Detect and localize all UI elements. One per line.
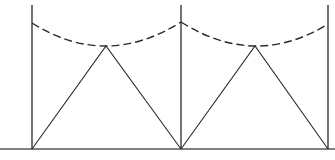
dashed-curves-group	[32, 22, 328, 46]
dashed-curve-left-sag	[32, 22, 181, 46]
triangle-left-span	[32, 46, 181, 149]
diagram-canvas	[0, 0, 335, 160]
truss-diagram	[0, 0, 335, 160]
poles-group	[32, 5, 328, 149]
triangles-group	[32, 46, 328, 149]
dashed-curve-right-sag	[181, 22, 328, 46]
triangle-right-span	[181, 46, 328, 149]
